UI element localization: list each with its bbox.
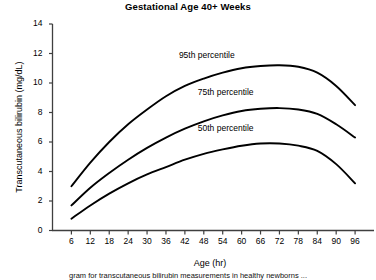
y-tick-label: 2 [21,196,43,205]
series-curve [71,143,355,219]
y-tick-label: 14 [21,19,43,28]
y-tick-label: 4 [21,167,43,176]
series-label: 75th percentile [198,88,254,97]
y-tick-label: 12 [21,49,43,58]
y-tick-label: 6 [21,137,43,146]
y-tick-label: 10 [21,78,43,87]
x-tick-label: 96 [343,237,367,246]
y-tick-label: 0 [21,226,43,235]
series-label: 95th percentile [179,51,235,60]
figure-caption: gram for transcutaneous bilirubin measur… [0,271,376,280]
y-tick-label: 8 [21,108,43,117]
series-label: 50th percentile [198,124,254,133]
